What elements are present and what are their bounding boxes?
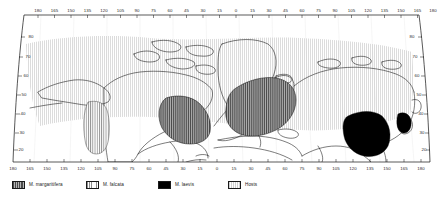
legend-swatch-m-falcata-icon <box>86 181 99 189</box>
lat-tick-right-5: 30 <box>420 130 425 136</box>
lat-tick-left-0: 80 <box>29 34 34 40</box>
lon-tick-bottom-6: 90 <box>112 163 117 174</box>
lat-tick-left-6: 20 <box>19 147 24 153</box>
lon-tick-bottom-24: 180 <box>417 163 425 174</box>
legend-swatch-m-laevis-icon <box>158 181 171 189</box>
lon-tick-bottom-7: 75 <box>129 163 134 174</box>
lon-tick-bottom-11: 15 <box>197 163 202 174</box>
longitude-axis-bottom: 180 165 150 135 120 105 90 75 60 45 30 1… <box>0 163 443 174</box>
legend-item-m-falcata: M. falcata <box>86 178 124 192</box>
legend-label-m-margaritifera: M. margaritifera <box>29 181 63 189</box>
lat-tick-right-4: 40 <box>419 111 424 117</box>
lon-tick-bottom-13: 15 <box>231 163 236 174</box>
lon-tick-bottom-15: 45 <box>265 163 270 174</box>
lon-tick-bottom-22: 150 <box>383 163 391 174</box>
legend-label-m-falcata: M. falcata <box>103 181 124 189</box>
lon-tick-bottom-1: 165 <box>26 163 34 174</box>
lat-tick-right-2: 60 <box>415 73 420 79</box>
lon-tick-bottom-23: 165 <box>400 163 408 174</box>
legend-label-hosts: Hosts <box>245 181 257 189</box>
region-m-laevis-sakhalin-japan <box>397 113 411 133</box>
lon-tick-bottom-5: 105 <box>94 163 102 174</box>
lon-tick-bottom-17: 75 <box>299 163 304 174</box>
lon-tick-bottom-20: 120 <box>349 163 357 174</box>
lat-tick-right-0: 80 <box>410 34 415 40</box>
lon-tick-bottom-12: 0 <box>216 163 219 174</box>
lon-tick-bottom-4: 120 <box>77 163 85 174</box>
lat-tick-left-3: 50 <box>22 92 27 98</box>
map-body <box>0 14 443 164</box>
distribution-map-figure: 180 165 150 135 120 105 90 75 60 45 30 1… <box>0 0 443 200</box>
lat-tick-left-4: 40 <box>21 111 26 117</box>
lon-tick-bottom-9: 45 <box>163 163 168 174</box>
lat-tick-left-2: 60 <box>24 73 29 79</box>
lat-tick-right-3: 50 <box>417 92 422 98</box>
lon-tick-bottom-0: 180 <box>9 163 17 174</box>
map-legend: M. margaritifera M. falcata M. laevis Ho… <box>0 178 443 194</box>
lon-tick-bottom-10: 30 <box>180 163 185 174</box>
legend-item-hosts: Hosts <box>228 178 257 192</box>
map-plate: 80 70 60 50 40 30 20 80 70 60 50 40 30 2… <box>0 14 443 164</box>
lon-tick-bottom-21: 135 <box>366 163 374 174</box>
map-canvas <box>0 14 443 164</box>
lon-tick-bottom-3: 135 <box>60 163 68 174</box>
lon-tick-bottom-19: 105 <box>332 163 340 174</box>
lat-tick-left-5: 30 <box>20 130 25 136</box>
lon-tick-bottom-16: 60 <box>282 163 287 174</box>
legend-label-m-laevis: M. laevis <box>175 181 194 189</box>
legend-swatch-m-margaritifera-icon <box>12 181 25 189</box>
lat-tick-right-1: 70 <box>413 54 418 60</box>
legend-item-m-margaritifera: M. margaritifera <box>12 178 63 192</box>
lon-tick-bottom-2: 150 <box>43 163 51 174</box>
region-m-falcata-western-north-america <box>84 101 110 154</box>
lon-tick-bottom-8: 60 <box>146 163 151 174</box>
lon-tick-bottom-14: 30 <box>248 163 253 174</box>
legend-item-m-laevis: M. laevis <box>158 178 194 192</box>
lon-tick-bottom-18: 90 <box>316 163 321 174</box>
legend-swatch-hosts-icon <box>228 181 241 189</box>
lat-tick-right-6: 20 <box>422 147 427 153</box>
lat-tick-left-1: 70 <box>26 54 31 60</box>
